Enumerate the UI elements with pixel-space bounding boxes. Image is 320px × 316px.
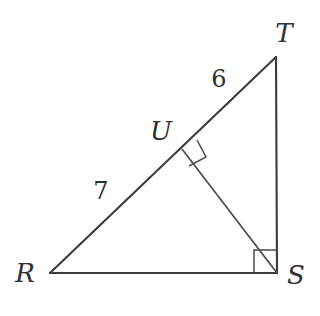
segment-us bbox=[182, 149, 277, 273]
vertex-label-u: U bbox=[150, 116, 173, 146]
vertex-label-r: R bbox=[14, 258, 35, 288]
measure-label-ru: 7 bbox=[93, 177, 108, 205]
segment-ts bbox=[276, 57, 277, 273]
geometry-canvas: R S T U 7 6 bbox=[0, 0, 320, 316]
vertex-label-t: T bbox=[275, 18, 294, 48]
measure-label-ut: 6 bbox=[211, 65, 226, 93]
vertex-label-s: S bbox=[287, 260, 305, 290]
geometry-figure: R S T U 7 6 bbox=[0, 0, 320, 316]
segment-rt bbox=[50, 57, 276, 273]
